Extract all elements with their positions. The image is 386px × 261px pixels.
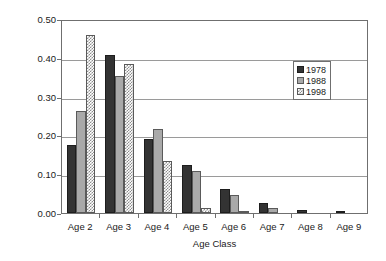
bar-group (220, 21, 249, 213)
y-tick-label: 0.30 (26, 93, 56, 103)
x-tick-label: Age 7 (253, 221, 291, 233)
x-tick-label: Age 2 (61, 221, 99, 233)
bar-group (67, 21, 96, 213)
x-axis-title: Age Class (61, 238, 368, 250)
bar-1988-age-6 (230, 195, 240, 213)
legend-label: 1988 (306, 76, 326, 86)
bar-1978-age-7 (259, 203, 269, 213)
bar-1998-age-3 (124, 64, 134, 213)
x-tick-mark (99, 214, 100, 218)
y-tick-label: 0.50 (26, 15, 56, 25)
legend-item-1998: 1998 (297, 86, 326, 97)
legend-swatch-icon (297, 88, 304, 95)
bar-1978-age-6 (220, 189, 230, 213)
bar-1978-age-2 (67, 145, 77, 213)
y-tick-label: 0.00 (26, 209, 56, 219)
bar-group (336, 21, 365, 213)
x-tick-label: Age 8 (291, 221, 329, 233)
bar-group (105, 21, 134, 213)
legend-item-1978: 1978 (297, 64, 326, 75)
legend-label: 1998 (306, 87, 326, 97)
bar-1978-age-5 (182, 165, 192, 213)
x-tick-label: Age 6 (215, 221, 253, 233)
bar-1978-age-4 (144, 139, 154, 213)
bar-1988-age-5 (192, 171, 202, 213)
bar-group (182, 21, 211, 213)
bar-group (259, 21, 288, 213)
x-tick-mark (176, 214, 177, 218)
x-tick-mark (253, 214, 254, 218)
x-tick-mark (138, 214, 139, 218)
bar-group (144, 21, 173, 213)
x-tick-label: Age 9 (330, 221, 368, 233)
bar-1998-age-4 (163, 161, 173, 213)
x-tick-mark (330, 214, 331, 218)
plot-area (61, 20, 368, 214)
bar-1978-age-9 (336, 211, 346, 213)
legend-swatch-icon (297, 66, 304, 73)
y-tick-label: 0.10 (26, 170, 56, 180)
bar-1988-age-7 (268, 208, 278, 213)
legend-item-1988: 1988 (297, 75, 326, 86)
x-axis-tick-labels: Age 2Age 3Age 4Age 5Age 6Age 7Age 8Age 9 (61, 221, 368, 235)
bar-chart: Proportion 0.000.100.200.300.400.50 Age … (0, 0, 386, 261)
x-axis-tick-marks (61, 214, 368, 219)
legend-label: 1978 (306, 65, 326, 75)
x-tick-label: Age 3 (99, 221, 137, 233)
x-tick-mark (291, 214, 292, 218)
legend-swatch-icon (297, 77, 304, 84)
bar-group (297, 21, 326, 213)
bar-1988-age-4 (153, 129, 163, 213)
bar-1998-age-6 (239, 211, 249, 213)
x-tick-mark (215, 214, 216, 218)
x-tick-label: Age 4 (138, 221, 176, 233)
bar-1988-age-2 (76, 111, 86, 213)
y-tick-label: 0.40 (26, 54, 56, 64)
bar-1978-age-8 (297, 210, 307, 213)
bars-layer (62, 21, 367, 213)
y-axis-tick-labels: 0.000.100.200.300.400.50 (24, 0, 56, 261)
bar-1998-age-2 (86, 35, 96, 213)
bar-1988-age-3 (115, 76, 125, 213)
bar-1998-age-5 (201, 208, 211, 213)
x-tick-label: Age 5 (176, 221, 214, 233)
chart-legend: 197819881998 (293, 61, 331, 100)
bar-1978-age-3 (105, 55, 115, 213)
y-tick-label: 0.20 (26, 131, 56, 141)
